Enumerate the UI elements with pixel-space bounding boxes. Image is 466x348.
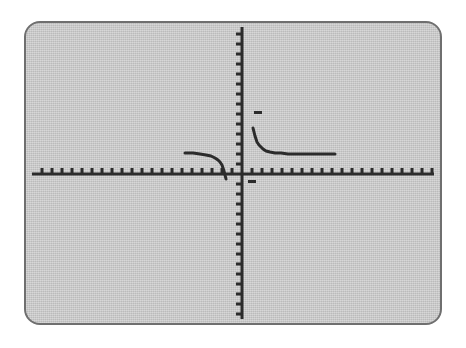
upper-dash-marker: [254, 111, 262, 114]
graph-plot-area: [26, 23, 440, 323]
calculator-screen: [24, 21, 442, 325]
lower-dash-marker: [248, 180, 256, 183]
curve-branch-upper-right: [253, 128, 335, 154]
